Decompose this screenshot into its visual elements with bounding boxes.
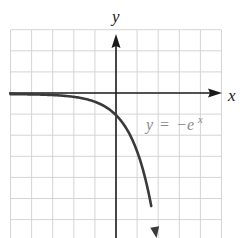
equation-lhs: y: [144, 116, 154, 134]
function-graph: x y y = −e x: [0, 0, 242, 238]
x-axis-label: x: [227, 86, 236, 105]
x-axis-arrow-icon: [208, 89, 222, 98]
equation-equals: =: [160, 116, 169, 133]
equation-rhs-base: −e: [176, 116, 194, 133]
y-axis-label: y: [110, 7, 120, 26]
equation-label: y = −e x: [144, 113, 203, 134]
y-axis-arrow-icon: [112, 34, 121, 48]
equation-rhs-exponent: x: [197, 113, 203, 125]
y-axis: [112, 34, 121, 238]
